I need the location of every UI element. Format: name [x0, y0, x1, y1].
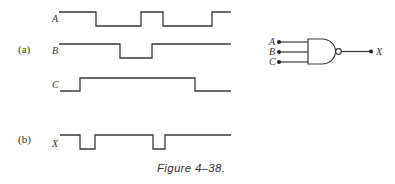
- timing-diagram: ABCX: [51, 12, 231, 149]
- gate-output-label-x: X: [375, 46, 383, 57]
- input-terminal-c: [277, 60, 281, 64]
- output-terminal-x: [369, 50, 373, 54]
- part-a-label: (a): [18, 43, 31, 56]
- inversion-bubble: [336, 49, 342, 55]
- figure-caption: Figure 4–38.: [157, 162, 225, 174]
- input-terminal-a: [277, 40, 281, 44]
- input-terminal-b: [277, 50, 281, 54]
- waveform-label-b: B: [52, 45, 58, 56]
- waveform-a: [59, 12, 231, 26]
- part-b-label: (b): [18, 133, 31, 146]
- waveform-c: [60, 78, 231, 91]
- nand-gate: [279, 39, 371, 64]
- waveform-b: [59, 44, 231, 58]
- figure-4-38: (a) (b) ABCX A B C X Figure 4–38.: [0, 0, 395, 184]
- waveform-label-a: A: [51, 13, 59, 24]
- waveform-label-c: C: [52, 79, 59, 90]
- waveform-label-x: X: [51, 138, 59, 149]
- gate-input-label-c: C: [269, 56, 276, 67]
- waveform-x: [60, 135, 231, 149]
- gate-body: [308, 39, 336, 64]
